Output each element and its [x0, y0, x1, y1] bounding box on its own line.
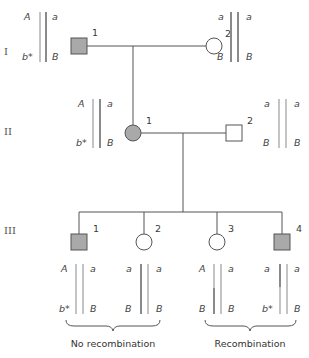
individual-number: 2 [247, 115, 253, 126]
allele: b* [59, 303, 70, 314]
individual-number: 1 [92, 27, 98, 38]
individual-II2-unaffected-male [226, 125, 242, 141]
brace-recombination [205, 320, 296, 331]
individual-number: 2 [155, 223, 161, 234]
allele: B [125, 303, 132, 314]
individual-number: 4 [296, 223, 302, 234]
allele: a [218, 11, 224, 22]
allele: B [263, 137, 270, 148]
individual-I1-affected-male [71, 38, 87, 54]
allele: A [23, 11, 31, 22]
caption-recombination: Recombination [214, 338, 285, 349]
pedigree-diagram: I II III A b* a B 1 2 a B a B A b* a B 1… [0, 0, 309, 358]
haplotype-III3: A B a B [198, 263, 235, 314]
generation-label-3: III [4, 225, 16, 236]
allele: B [107, 137, 114, 148]
generation-label-2: II [4, 126, 12, 137]
individual-III2-unaffected-female [136, 234, 152, 250]
allele: a [52, 11, 58, 22]
allele: a [246, 11, 252, 22]
allele: a [264, 263, 270, 274]
allele: B [246, 51, 253, 62]
allele: a [156, 263, 162, 274]
individual-II1-affected-female [125, 125, 141, 141]
haplotype-III1: A b* a B [59, 263, 97, 314]
individual-III4-affected-male [274, 234, 290, 250]
individual-III3-unaffected-female [209, 234, 225, 250]
allele: a [90, 263, 96, 274]
haplotype-I1: A b* a B [22, 11, 59, 62]
allele: A [198, 263, 206, 274]
haplotype-III2: a B a B [125, 263, 163, 314]
allele: A [77, 98, 85, 109]
allele: a [294, 263, 300, 274]
brace-no-recombination [66, 320, 160, 331]
individual-number: 3 [228, 223, 234, 234]
haplotype-I2: a B a B [217, 11, 253, 62]
individual-number: 1 [146, 115, 152, 126]
allele: b* [22, 51, 33, 62]
allele: A [60, 263, 68, 274]
allele: B [294, 137, 301, 148]
allele: B [217, 51, 224, 62]
allele: B [90, 303, 97, 314]
allele: B [156, 303, 163, 314]
allele: a [126, 263, 132, 274]
allele: B [199, 303, 206, 314]
allele: a [228, 263, 234, 274]
allele: a [264, 98, 270, 109]
allele: B [228, 303, 235, 314]
haplotype-III4: a b* a B [262, 263, 301, 314]
allele: B [52, 51, 59, 62]
allele: B [294, 303, 301, 314]
allele: a [294, 98, 300, 109]
individual-III1-affected-male [71, 234, 87, 250]
allele: b* [262, 303, 273, 314]
individual-number: 1 [93, 223, 99, 234]
caption-no-recombination: No recombination [71, 338, 155, 349]
allele: a [107, 98, 113, 109]
haplotype-II2: a B a B [263, 98, 301, 148]
generation-label-1: I [4, 46, 8, 57]
haplotype-II1: A b* a B [76, 98, 114, 148]
allele: b* [76, 137, 87, 148]
